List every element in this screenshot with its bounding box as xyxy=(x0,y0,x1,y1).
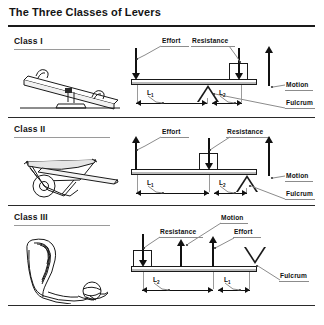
dim-tick-2b xyxy=(209,175,210,192)
dimension-label-L1-c2: L1 xyxy=(147,179,154,186)
motion-label-rule-3 xyxy=(220,223,248,224)
motion-leader-3 xyxy=(180,222,224,248)
dimension-label-L2-c2: L2 xyxy=(219,179,226,186)
class-label-3: Class III xyxy=(14,212,48,222)
effort-label-2: Effort xyxy=(162,128,180,135)
effort-label-3: Effort xyxy=(234,228,252,235)
resistance-label-3: Resistance xyxy=(160,228,196,235)
fulcrum-label-rule-1 xyxy=(285,108,315,109)
section-rule-1 xyxy=(8,117,315,118)
motion-label-3: Motion xyxy=(221,214,244,221)
class-underline-3 xyxy=(14,225,110,226)
class-label-2: Class II xyxy=(14,124,45,134)
dimension-line-L1-c1 xyxy=(136,103,207,104)
effort-leader-1 xyxy=(131,45,193,65)
dim-leader-L2-c3 xyxy=(152,282,174,294)
title-rule xyxy=(8,25,315,27)
fulcrum-label-rule-2 xyxy=(285,199,315,200)
class-underline-2 xyxy=(14,137,110,138)
fulcrum-label-2: Fulcrum xyxy=(286,190,313,197)
dimension-label-L1-c3: L1 xyxy=(224,276,231,283)
dimension-label-L2-c3: L2 xyxy=(153,276,160,283)
dim-tick-1b xyxy=(207,98,208,104)
class-label-1: Class I xyxy=(14,36,43,46)
effort-label-rule-3 xyxy=(233,237,261,238)
dim-leader-L1-c3 xyxy=(223,282,245,294)
fulcrum-label-1: Fulcrum xyxy=(286,99,313,106)
arm-elbow-illustration xyxy=(20,234,122,304)
dimension-line-L2-c2 xyxy=(214,193,247,194)
seesaw-illustration xyxy=(18,60,122,112)
dimension-line-L1-c3 xyxy=(218,290,250,291)
resistance-label-rule-3 xyxy=(159,237,203,238)
section-rule-2 xyxy=(8,205,315,206)
motion-label-2: Motion xyxy=(286,172,309,179)
wheelbarrow-illustration xyxy=(18,146,122,200)
effort-label-rule-2 xyxy=(161,137,189,138)
dim-leader-L1-c1 xyxy=(146,95,168,107)
motion-label-rule-2 xyxy=(285,181,313,182)
dim-leader-L1-c2 xyxy=(146,185,168,197)
fulcrum-triangle-inner-2 xyxy=(238,178,256,192)
motion-label-1: Motion xyxy=(286,81,309,88)
effort-leader-2 xyxy=(131,136,193,156)
effort-label-1: Effort xyxy=(162,37,180,44)
dimension-line-L1-c2 xyxy=(136,193,209,194)
resistance-leader-2 xyxy=(206,136,234,154)
dimension-label-L2-c1: L2 xyxy=(219,89,226,96)
resistance-label-rule-2 xyxy=(226,137,270,138)
dimension-label-L1-c1: L1 xyxy=(147,89,154,96)
class-underline-1 xyxy=(14,49,110,50)
figure-title: The Three Classes of Levers xyxy=(9,6,161,18)
resistance-label-2: Resistance xyxy=(227,128,263,135)
fulcrum-triangle-inner-3 xyxy=(246,247,264,261)
dimension-line-L2-c1 xyxy=(212,103,242,104)
levers-figure: The Three Classes of Levers Class I xyxy=(0,0,324,325)
dimension-line-L2-c3 xyxy=(142,290,213,291)
resistance-label-1: Resistance xyxy=(192,37,228,44)
motion-label-rule-1 xyxy=(285,90,313,91)
dim-tick-3b xyxy=(213,272,214,289)
section-rule-3 xyxy=(8,305,315,306)
resistance-label-rule-1 xyxy=(191,46,235,47)
effort-label-rule-1 xyxy=(161,46,189,47)
fulcrum-label-rule-3 xyxy=(279,281,309,282)
fulcrum-label-3: Fulcrum xyxy=(280,272,307,279)
